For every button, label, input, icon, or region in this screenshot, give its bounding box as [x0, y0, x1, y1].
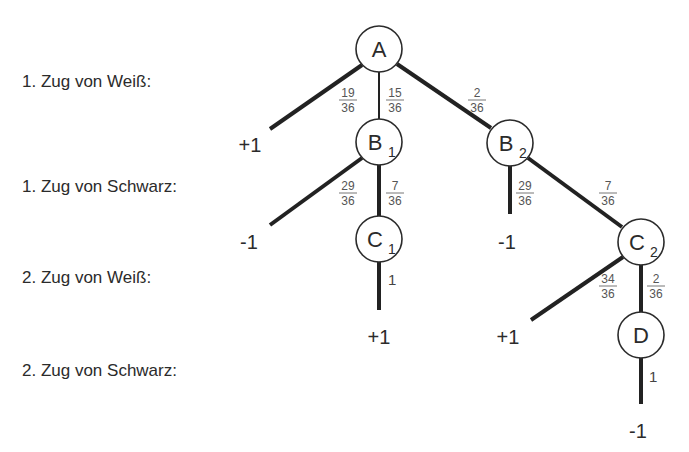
row-label-black-move-1: 1. Zug von Schwarz: — [22, 177, 177, 196]
svg-text:29: 29 — [341, 179, 355, 193]
payoff-B1-left: -1 — [240, 231, 258, 253]
row-label-white-move-2: 2. Zug von Weiß: — [22, 268, 151, 287]
svg-text:7: 7 — [392, 179, 399, 193]
svg-text:A: A — [372, 37, 387, 62]
prob-A-B1: 15 36 — [386, 86, 404, 115]
svg-text:36: 36 — [601, 287, 615, 301]
prob-C2-D: 2 36 — [647, 272, 665, 301]
node-B2: B 2 — [487, 120, 533, 166]
svg-text:34: 34 — [601, 272, 615, 286]
prob-C1-down: 1 — [388, 271, 396, 288]
payoff-D-down: -1 — [629, 420, 647, 442]
payoff-C2-left: +1 — [497, 326, 520, 348]
node-C2: C 2 — [618, 219, 664, 265]
payoff-C1-down: +1 — [368, 326, 391, 348]
prob-A-left: 19 36 — [339, 86, 357, 115]
svg-text:36: 36 — [601, 194, 615, 208]
prob-B1-C1: 7 36 — [386, 179, 404, 208]
svg-text:2: 2 — [474, 86, 481, 100]
svg-text:19: 19 — [341, 86, 355, 100]
svg-text:D: D — [633, 323, 649, 348]
svg-text:36: 36 — [470, 101, 484, 115]
prob-D-down: 1 — [649, 368, 657, 385]
prob-B2-C2: 7 36 — [599, 179, 617, 208]
svg-text:C: C — [367, 227, 383, 252]
prob-C2-left: 34 36 — [599, 272, 617, 301]
svg-text:29: 29 — [518, 179, 532, 193]
prob-A-B2: 2 36 — [468, 86, 486, 115]
svg-text:36: 36 — [341, 101, 355, 115]
svg-text:36: 36 — [518, 194, 532, 208]
row-label-white-move-1: 1. Zug von Weiß: — [22, 72, 151, 91]
svg-text:36: 36 — [649, 287, 663, 301]
svg-text:B: B — [499, 131, 514, 156]
row-label-black-move-2: 2. Zug von Schwarz: — [22, 361, 177, 380]
payoff-B2-down: -1 — [498, 231, 516, 253]
node-D: D — [618, 312, 664, 358]
svg-text:36: 36 — [388, 194, 402, 208]
svg-text:36: 36 — [388, 101, 402, 115]
prob-B2-down: 29 36 — [516, 179, 534, 208]
node-C1: C 1 — [356, 216, 402, 262]
svg-text:1: 1 — [388, 241, 396, 257]
svg-text:7: 7 — [605, 179, 612, 193]
node-A: A — [356, 26, 402, 72]
game-tree-diagram: 1. Zug von Weiß: 1. Zug von Schwarz: 2. … — [0, 0, 689, 452]
svg-text:1: 1 — [388, 144, 396, 160]
svg-text:2: 2 — [650, 244, 658, 260]
svg-text:15: 15 — [388, 86, 402, 100]
svg-text:B: B — [368, 130, 383, 155]
svg-text:36: 36 — [341, 194, 355, 208]
svg-text:C: C — [629, 230, 645, 255]
svg-text:2: 2 — [653, 272, 660, 286]
payoff-A-left: +1 — [239, 134, 262, 156]
svg-text:2: 2 — [519, 145, 527, 161]
prob-B1-left: 29 36 — [339, 179, 357, 208]
node-B1: B 1 — [356, 119, 402, 165]
